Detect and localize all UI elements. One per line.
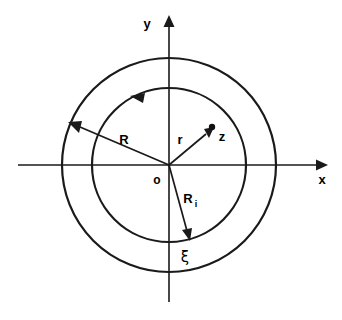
y-axis-label: y [143, 16, 151, 31]
radius-r-line [169, 134, 206, 165]
x-axis-arrowhead [316, 160, 328, 171]
x-axis-label: x [318, 172, 326, 187]
radius-Ri-subscript: i [195, 199, 198, 209]
radius-r-label: r [177, 132, 182, 147]
point-z-label: z [219, 129, 226, 144]
radius-R-label: R [119, 132, 129, 147]
point-xi-label: ξ [181, 248, 189, 266]
diagram-canvas: y x o R r z R i ξ [0, 0, 342, 320]
figure-container: y x o R r z R i ξ [0, 0, 342, 320]
point-z-dot [209, 124, 215, 130]
origin-label: o [153, 173, 160, 187]
y-axis-arrowhead [164, 15, 175, 27]
radius-Ri-label: R [183, 191, 193, 206]
radius-Ri-label-group: R i [183, 191, 197, 209]
labels-group: y x o R r z R i ξ [119, 16, 326, 266]
radius-r-vector [169, 124, 215, 165]
